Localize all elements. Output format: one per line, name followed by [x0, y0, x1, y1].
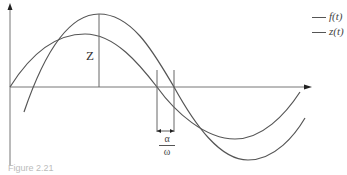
legend-line-icon — [312, 17, 326, 18]
amplitude-label: Z — [86, 48, 94, 64]
y-axis-arrow-icon — [8, 3, 13, 10]
legend-item-f: f(t) — [312, 10, 342, 22]
x-axis-arrow-icon — [304, 85, 312, 90]
legend-label: f(t) — [329, 10, 342, 22]
phase-numerator: α — [159, 134, 175, 146]
arrow-left-icon — [157, 129, 161, 133]
phase-denominator: ω — [159, 146, 175, 157]
legend-label: z(t) — [329, 25, 344, 37]
phase-shift-label: α ω — [159, 134, 175, 157]
arrow-right-icon — [170, 129, 174, 133]
figure-caption: Figure 2.21 — [8, 163, 54, 173]
legend-item-z: z(t) — [312, 25, 344, 37]
legend-line-icon — [312, 32, 326, 33]
